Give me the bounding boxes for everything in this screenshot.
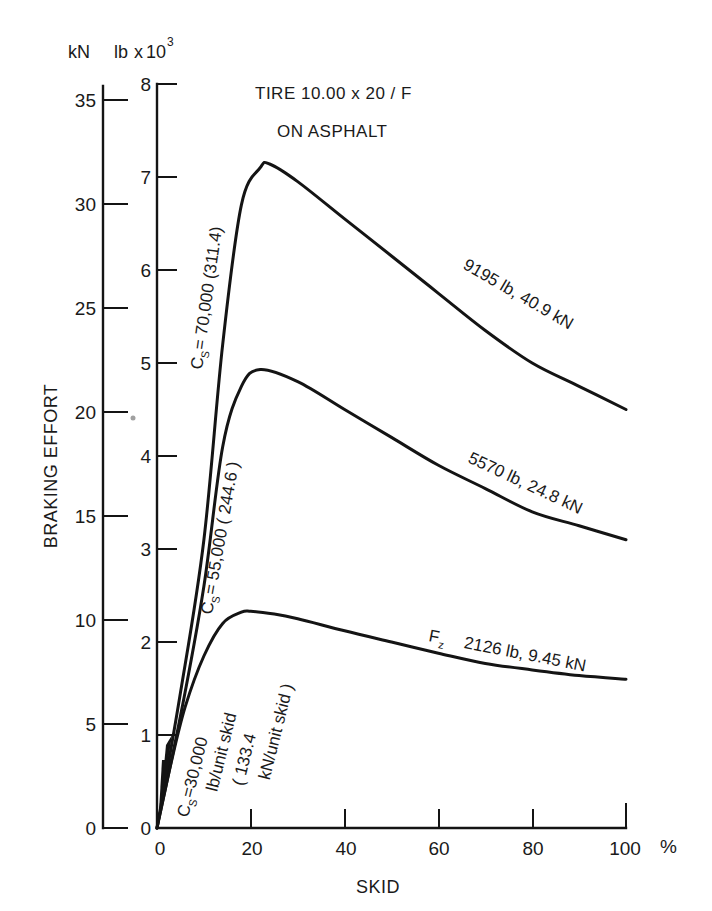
svg-text:7: 7 <box>140 167 151 188</box>
y-axis-title: BRAKING EFFORT <box>41 384 61 549</box>
svg-text:10: 10 <box>75 610 96 631</box>
kn-axis: 0 5 10 15 20 25 30 35 <box>75 86 128 839</box>
svg-text:4: 4 <box>140 446 151 467</box>
svg-text:20: 20 <box>75 402 96 423</box>
svg-text:60: 60 <box>428 838 449 859</box>
x-axis: 0 20 40 60 80 100 % <box>155 803 677 859</box>
svg-text:S: S <box>209 595 222 604</box>
svg-text:30: 30 <box>75 194 96 215</box>
x-axis-title: SKID <box>356 877 400 897</box>
svg-text:40: 40 <box>335 838 356 859</box>
svg-text:35: 35 <box>75 90 96 111</box>
svg-text:8: 8 <box>140 74 151 95</box>
svg-text:3: 3 <box>140 539 151 560</box>
svg-text:100: 100 <box>609 838 641 859</box>
svg-text:80: 80 <box>522 838 543 859</box>
curve1-load-label: 9195 lb, 40.9 kN <box>460 255 577 333</box>
lb-unit-label: lb x 10 3 <box>114 35 174 62</box>
svg-text:5: 5 <box>85 714 96 735</box>
svg-text:z: z <box>437 638 445 651</box>
x-unit-label: % <box>660 836 677 857</box>
svg-text:S: S <box>199 350 212 359</box>
kn-unit-label: kN <box>68 42 90 62</box>
scan-artifact-dot <box>131 416 136 421</box>
svg-text:x: x <box>134 42 143 62</box>
svg-text:25: 25 <box>75 298 96 319</box>
svg-text:5: 5 <box>140 353 151 374</box>
svg-text:0: 0 <box>140 818 151 839</box>
svg-text:10: 10 <box>146 42 166 62</box>
svg-text:= 55,000 ( 244.6 ): = 55,000 ( 244.6 ) <box>201 460 243 596</box>
svg-text:0: 0 <box>155 838 166 859</box>
svg-text:0: 0 <box>85 818 96 839</box>
svg-text:2: 2 <box>140 632 151 653</box>
svg-text:20: 20 <box>241 838 262 859</box>
initial-slope-fan <box>158 735 172 828</box>
lb-axis: 0 1 2 3 4 5 6 7 8 <box>140 74 177 839</box>
svg-text:lb: lb <box>114 42 128 62</box>
svg-text:1: 1 <box>140 725 151 746</box>
curve3-load-label: F z 2126 lb, 9.45 kN <box>427 626 588 678</box>
svg-text:15: 15 <box>75 506 96 527</box>
braking-effort-chart: kN lb x 10 3 TIRE 10.00 x 20 / F ON ASPH… <box>0 0 712 911</box>
svg-text:= 70,000 (311.4): = 70,000 (311.4) <box>190 225 226 350</box>
chart-subtitle: ON ASPHALT <box>277 122 388 141</box>
svg-text:kN/unit skid ): kN/unit skid ) <box>255 682 297 782</box>
svg-text:6: 6 <box>140 260 151 281</box>
chart-title: TIRE 10.00 x 20 / F <box>255 84 412 103</box>
svg-text:3: 3 <box>167 35 174 49</box>
